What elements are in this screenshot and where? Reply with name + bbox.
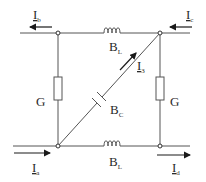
capacitor-plate-1 <box>92 98 101 107</box>
label-id: Id <box>172 160 180 177</box>
node-top-left <box>56 31 60 35</box>
resistor-left <box>54 77 62 100</box>
diagonal-lower <box>58 103 97 146</box>
label-g-left: G <box>36 94 45 109</box>
label-bl-top: BL <box>109 39 122 56</box>
label-ia: Ia <box>32 160 40 177</box>
inductor-top-coil <box>103 28 123 33</box>
node-bottom-left <box>56 144 60 148</box>
label-bc: BC <box>110 102 124 119</box>
circuit-diagram: Ib Ic Ia Id I3 BL BL BC G G <box>0 0 206 182</box>
inductor-bottom-coil <box>103 141 123 146</box>
label-g-right: G <box>170 94 179 109</box>
resistor-right <box>156 77 164 100</box>
node-top-right <box>158 31 162 35</box>
node-bottom-right <box>158 144 162 148</box>
label-bl-bottom: BL <box>109 154 122 171</box>
label-i3: I3 <box>137 58 145 75</box>
label-ib: Ib <box>33 7 41 24</box>
label-ic: Ic <box>186 7 193 24</box>
